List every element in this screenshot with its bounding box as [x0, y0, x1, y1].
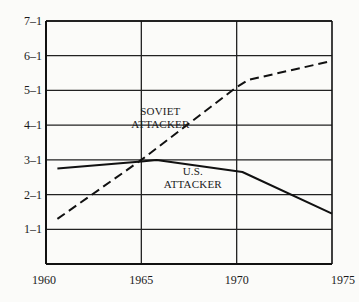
x-axis-tick-labels: 1960196519701975: [32, 273, 355, 287]
x-tick-label: 1960: [32, 273, 56, 287]
series-annotations: SOVIETATTACKERU.S.ATTACKER: [131, 105, 222, 191]
y-tick-label: 2–1: [24, 188, 42, 202]
x-tick-label: 1965: [129, 273, 153, 287]
annotation-line: SOVIET: [140, 105, 180, 117]
annotation-line: U.S.: [183, 165, 203, 177]
ratio-line-chart: 1–12–13–14–15–16–17–1 1960196519701975 S…: [0, 0, 359, 302]
annotation-line: ATTACKER: [131, 118, 190, 130]
y-tick-label: 6–1: [24, 49, 42, 63]
us-attacker-label: U.S.ATTACKER: [164, 165, 223, 190]
x-tick-label: 1975: [331, 273, 355, 287]
y-axis-tick-labels: 1–12–13–14–15–16–17–1: [24, 14, 42, 236]
y-tick-label: 5–1: [24, 83, 42, 97]
axes: [46, 21, 332, 264]
annotation-line: ATTACKER: [164, 178, 223, 190]
chart-canvas: 1–12–13–14–15–16–17–1 1960196519701975 S…: [0, 0, 359, 302]
gridlines: [46, 21, 332, 264]
y-tick-label: 1–1: [24, 222, 42, 236]
y-tick-label: 7–1: [24, 14, 42, 28]
soviet-attacker-label: SOVIETATTACKER: [131, 105, 190, 130]
y-tick-label: 4–1: [24, 118, 42, 132]
x-tick-label: 1970: [225, 273, 249, 287]
y-tick-label: 3–1: [24, 153, 42, 167]
